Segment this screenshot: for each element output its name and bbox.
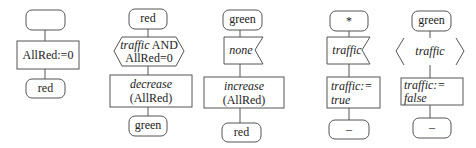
- task-label-line2: (AllRed): [204, 94, 284, 107]
- task-label: AllRed:=0: [17, 49, 79, 62]
- task-label-line2: (AllRed): [110, 92, 192, 105]
- state-label: *: [330, 15, 368, 28]
- task-label-line1: increase: [204, 80, 284, 93]
- state-label: red: [26, 82, 65, 95]
- start-state-oval: [26, 10, 65, 30]
- state-label: –: [329, 123, 369, 136]
- input-label: traffic: [327, 44, 367, 57]
- decision-operator: AND: [152, 38, 178, 52]
- task-label-line2: false: [404, 92, 463, 105]
- state-label: red: [222, 126, 261, 139]
- state-label: green: [412, 14, 451, 27]
- decision-right-bracket: [456, 38, 464, 65]
- task-label-line2: true: [331, 94, 380, 107]
- decision-label: traffic: [404, 45, 456, 58]
- decision-label-line2: AllRed=0: [114, 52, 184, 65]
- task-label-line1: decrease: [110, 78, 192, 91]
- task-label-line1: traffic:=: [331, 80, 380, 93]
- state-label: –: [413, 121, 451, 134]
- state-label: green: [223, 13, 262, 26]
- decision-left-bracket: [396, 38, 404, 65]
- state-label: green: [129, 119, 167, 132]
- decision-signal: traffic: [120, 38, 149, 52]
- state-label: red: [129, 12, 167, 25]
- input-label: none: [224, 44, 258, 57]
